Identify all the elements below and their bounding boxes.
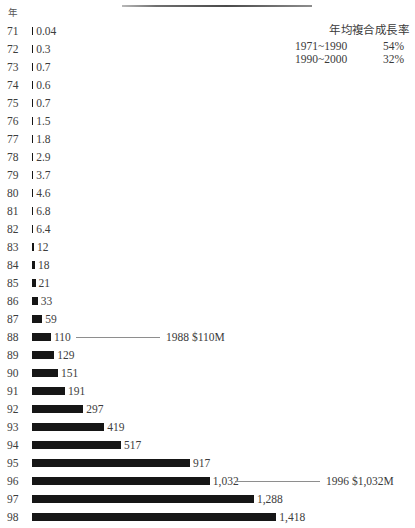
bar-category-label: 81 [7, 205, 27, 217]
chart-bar-row: 782.9 [0, 148, 415, 166]
bar [32, 81, 33, 89]
bar [32, 225, 33, 233]
bar [32, 405, 83, 413]
bar-category-label: 93 [7, 421, 27, 433]
bar-value-label: 1,418 [279, 511, 305, 523]
bar-category-label: 82 [7, 223, 27, 235]
bar [32, 243, 34, 251]
bar [32, 63, 33, 71]
bar-category-label: 85 [7, 277, 27, 289]
bar-category-label: 83 [7, 241, 27, 253]
bar-category-label: 90 [7, 367, 27, 379]
bar-category-label: 92 [7, 403, 27, 415]
bar-value-label: 33 [41, 295, 53, 307]
bar-value-label: 0.7 [36, 97, 50, 109]
bar-chart-plot: 710.04720.3730.7740.6750.7761.5771.8782.… [0, 0, 415, 528]
bar [32, 135, 33, 143]
chart-bar-row: 771.8 [0, 130, 415, 148]
bar-category-label: 75 [7, 97, 27, 109]
chart-bar-row: 8759 [0, 310, 415, 328]
bar [32, 261, 35, 269]
annotation-leader-line [76, 337, 160, 338]
bar-category-label: 87 [7, 313, 27, 325]
bar [32, 27, 33, 35]
bar-category-label: 73 [7, 61, 27, 73]
chart-bar-row: 92297 [0, 400, 415, 418]
bar-category-label: 79 [7, 169, 27, 181]
chart-bar-row: 761.5 [0, 112, 415, 130]
bar [32, 513, 276, 521]
chart-bar-row: 740.6 [0, 76, 415, 94]
bar-value-label: 1.8 [36, 133, 50, 145]
bar [32, 279, 36, 287]
bar-category-label: 84 [7, 259, 27, 271]
bar-value-label: 517 [124, 439, 141, 451]
bar [32, 459, 190, 467]
chart-bar-row: 94517 [0, 436, 415, 454]
bar [32, 171, 33, 179]
bar-category-label: 97 [7, 493, 27, 505]
chart-bar-row: 750.7 [0, 94, 415, 112]
chart-bar-row: 8521 [0, 274, 415, 292]
bar-value-label: 917 [193, 457, 210, 469]
chart-bar-row: 730.7 [0, 58, 415, 76]
chart-bar-row: 826.4 [0, 220, 415, 238]
chart-bar-row: 89129 [0, 346, 415, 364]
bar [32, 351, 54, 359]
bar [32, 153, 33, 161]
bar-category-label: 71 [7, 25, 27, 37]
bar [32, 207, 33, 215]
bar-value-label: 151 [61, 367, 78, 379]
bar-category-label: 86 [7, 295, 27, 307]
chart-bar-row: 793.7 [0, 166, 415, 184]
bar-value-label: 6.8 [36, 205, 50, 217]
bar [32, 495, 254, 503]
bar-category-label: 74 [7, 79, 27, 91]
bar-category-label: 72 [7, 43, 27, 55]
bar [32, 441, 121, 449]
bar-category-label: 76 [7, 115, 27, 127]
bar [32, 315, 42, 323]
chart-bar-row: 8633 [0, 292, 415, 310]
bar-value-label: 297 [86, 403, 103, 415]
annotation-leader-line [235, 481, 320, 482]
bar-category-label: 80 [7, 187, 27, 199]
bar-value-label: 6.4 [36, 223, 50, 235]
bar [32, 297, 38, 305]
bar-value-label: 0.04 [36, 25, 56, 37]
bar-value-label: 129 [57, 349, 74, 361]
bar-category-label: 91 [7, 385, 27, 397]
chart-bar-row: 8312 [0, 238, 415, 256]
annotation-text: 1988 $110M [166, 331, 225, 343]
bar-category-label: 89 [7, 349, 27, 361]
bar-value-label: 191 [68, 385, 85, 397]
chart-bar-row: 981,418 [0, 508, 415, 526]
bar-value-label: 0.6 [36, 79, 50, 91]
bar [32, 387, 65, 395]
bar [32, 99, 33, 107]
chart-annotation: 1996 $1,032M [0, 472, 415, 490]
annotation-text: 1996 $1,032M [326, 475, 394, 487]
bar-value-label: 2.9 [36, 151, 50, 163]
bar-value-label: 4.6 [36, 187, 50, 199]
bar-value-label: 0.7 [36, 61, 50, 73]
bar [32, 189, 33, 197]
chart-bar-row: 804.6 [0, 184, 415, 202]
bar-category-label: 77 [7, 133, 27, 145]
bar-value-label: 1.5 [36, 115, 50, 127]
chart-bar-row: 971,288 [0, 490, 415, 508]
chart-annotation: 1988 $110M [0, 328, 415, 346]
chart-bar-row: 710.04 [0, 22, 415, 40]
bar-category-label: 98 [7, 511, 27, 523]
bar-value-label: 3.7 [36, 169, 50, 181]
bar-value-label: 419 [107, 421, 124, 433]
bar-value-label: 12 [37, 241, 49, 253]
bar-value-label: 0.3 [36, 43, 50, 55]
bar-value-label: 59 [45, 313, 57, 325]
chart-bar-row: 95917 [0, 454, 415, 472]
chart-bar-row: 8418 [0, 256, 415, 274]
bar-value-label: 18 [38, 259, 50, 271]
bar [32, 117, 33, 125]
chart-bar-row: 90151 [0, 364, 415, 382]
bar [32, 45, 33, 53]
